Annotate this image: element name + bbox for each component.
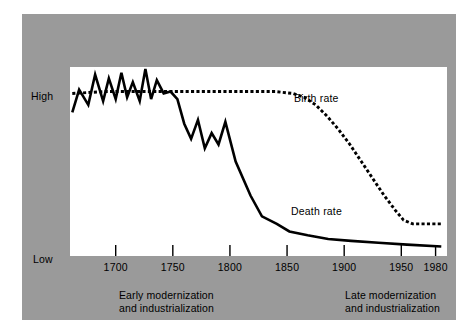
chart-svg — [0, 0, 469, 335]
caption-late-modernization: Late modernization and industrialization — [345, 289, 440, 314]
x-axis-tick-label-1800: 1800 — [218, 261, 242, 273]
x-axis-tick-label-1750: 1750 — [161, 261, 185, 273]
demographic-transition-figure: High Low 1700175018001850190019501980 Bi… — [0, 0, 469, 335]
x-axis-tick-label-1980: 1980 — [424, 261, 448, 273]
death-rate-line — [72, 69, 441, 247]
birth-rate-label: Birth rate — [294, 92, 339, 104]
caption-early-line-1: Early modernization — [119, 289, 214, 302]
caption-early-modernization: Early modernization and industrializatio… — [119, 289, 214, 314]
x-axis-tick-label-1850: 1850 — [275, 261, 299, 273]
x-axis-tick-label-1700: 1700 — [104, 261, 128, 273]
caption-late-line-2: and industrialization — [345, 302, 440, 315]
x-axis-tick-marks — [116, 245, 436, 256]
x-axis-tick-label-1900: 1900 — [332, 261, 356, 273]
caption-early-line-2: and industrialization — [119, 302, 214, 315]
x-axis-tick-label-1950: 1950 — [389, 261, 413, 273]
birth-rate-line — [72, 92, 441, 224]
y-axis-label-low: Low — [33, 253, 53, 265]
death-rate-label: Death rate — [291, 205, 342, 217]
caption-late-line-1: Late modernization — [345, 289, 440, 302]
y-axis-label-high: High — [31, 90, 53, 102]
